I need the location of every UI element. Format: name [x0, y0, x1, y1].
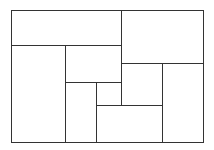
outer-border: [12, 11, 204, 143]
diagram-lines: [12, 11, 204, 143]
rectangle-partition-diagram: [0, 0, 214, 150]
